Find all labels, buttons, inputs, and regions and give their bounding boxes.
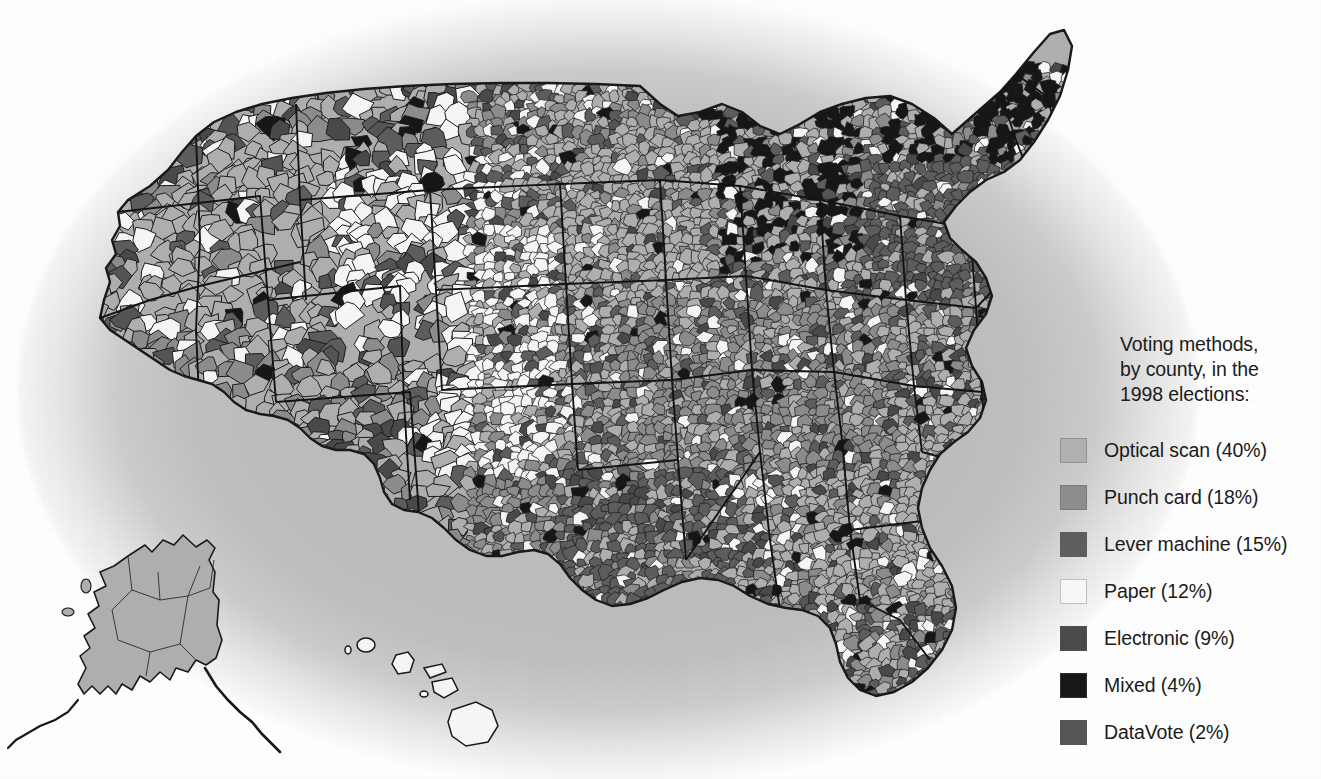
county-cell [780,89,796,103]
county-cell [997,598,1008,607]
county-cell [107,387,139,414]
county-cell [311,67,332,89]
county-cell [647,636,659,649]
county-cell [173,406,195,430]
county-cell [667,630,678,641]
county-cell [356,563,379,585]
county-cell [1034,217,1049,230]
county-cell [350,501,372,525]
county-cell [1014,556,1026,569]
county-cell [922,515,939,527]
county-cell [990,62,1000,75]
county-cell [131,508,149,533]
county-cell [81,357,113,388]
county-cell [662,80,676,95]
county-cell [315,600,342,617]
legend-label-lever-machine: Lever machine (15%) [1104,533,1287,556]
county-cell [535,670,547,679]
county-cell [465,589,478,598]
county-cell [970,578,983,590]
county-cell [390,578,415,603]
county-cell [985,651,1002,665]
county-cell [94,419,118,438]
county-cell [265,491,286,515]
county-cell [777,113,791,126]
county-cell [590,672,603,685]
county-cell [718,688,730,702]
county-cell [668,652,685,667]
county-cell [989,478,1004,490]
county-cell [141,458,166,482]
county-cell [1030,604,1048,618]
county-cell [690,88,708,100]
county-cell [943,500,956,518]
county-cell [592,606,604,618]
county-cell [681,98,698,114]
county-cell [653,628,666,643]
county-cell [315,618,344,638]
county-cell [1054,207,1067,221]
county-cell [1055,305,1072,317]
county-cell [690,631,709,649]
county-cell [771,664,787,680]
county-cell [232,439,257,460]
county-cell [1044,397,1059,412]
county-cell [644,613,655,625]
county-cell [1045,706,1058,716]
county-cell [567,615,577,625]
county-cell [312,586,339,607]
county-cell [371,508,392,530]
county-cell [694,606,716,620]
county-cell [147,472,171,489]
county-cell [790,693,802,705]
county-cell [130,452,150,473]
county-cell [761,635,776,646]
county-cell [1011,495,1025,507]
legend-swatch-electronic [1060,626,1087,651]
county-cell [253,467,277,490]
county-cell [995,62,1012,78]
county-cell [568,702,582,714]
county-cell [591,688,605,700]
county-cell [99,402,118,423]
county-cell [718,641,731,651]
county-cell [629,702,639,711]
county-cell [999,513,1015,527]
county-cell [255,68,273,92]
county-cell [956,486,965,499]
county-cell [221,628,245,645]
county-cell [227,446,252,467]
county-cell [757,634,768,647]
county-cell [683,669,696,679]
county-cell [674,702,690,719]
county-cell [127,488,158,515]
county-cell [72,537,96,563]
county-cell [396,575,418,594]
county-cell [980,227,994,239]
county-cell [1033,695,1045,706]
county-cell [995,679,1009,690]
county-cell [820,691,839,707]
county-cell [972,215,987,232]
county-cell [981,703,992,716]
county-cell [1000,588,1010,599]
county-cell [96,74,114,93]
county-cell [572,614,587,625]
county-cell [1041,613,1051,621]
county-cell [316,453,335,474]
county-cell [697,616,709,627]
county-cell [1004,437,1019,449]
county-cell [949,80,965,94]
county-cell [801,632,813,641]
county-cell [131,474,158,492]
county-cell [585,616,598,628]
county-cell [636,633,651,644]
county-cell [535,660,549,674]
county-cell [500,670,513,680]
county-cell [769,94,784,109]
county-cell [168,418,198,444]
county-cell [1043,128,1055,140]
county-cell [427,552,459,572]
county-cell [760,660,774,669]
county-cell [554,605,568,614]
